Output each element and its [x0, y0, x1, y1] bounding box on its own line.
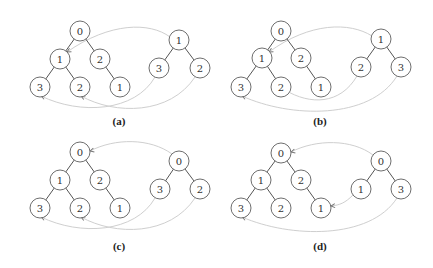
tree-node: 3: [30, 77, 50, 97]
panel-caption: (c): [113, 240, 126, 253]
tree-node: 1: [351, 179, 371, 199]
node-label: 2: [77, 82, 83, 93]
tree-node: 2: [271, 198, 291, 218]
node-label: 3: [238, 203, 244, 214]
mapping-arc: [290, 143, 373, 155]
node-label: 0: [278, 148, 284, 159]
node-label: 2: [358, 62, 364, 73]
tree-node: 3: [391, 179, 411, 199]
left-tree: 012321: [30, 142, 130, 218]
tree-node: 3: [231, 77, 251, 97]
left-tree: 012321: [231, 21, 331, 97]
node-label: 1: [259, 53, 265, 64]
mapping-arc: [89, 142, 172, 154]
tree-node: 2: [291, 170, 311, 190]
node-label: 1: [117, 82, 123, 93]
tree-node: 1: [169, 30, 189, 50]
tree-node: 2: [70, 198, 90, 218]
tree-node: 3: [150, 179, 170, 199]
tree-node: 2: [70, 77, 90, 97]
node-label: 3: [398, 62, 404, 73]
node-label: 0: [378, 156, 384, 167]
tree-node: 0: [371, 151, 391, 171]
tree-node: 0: [271, 21, 291, 41]
tree-node: 1: [311, 77, 331, 97]
tree-node: 1: [252, 48, 272, 68]
node-label: 3: [37, 203, 43, 214]
right-tree: 132: [149, 30, 210, 78]
tree-node: 2: [190, 179, 210, 199]
left-tree: 012321: [30, 21, 130, 97]
panel-caption: (b): [313, 115, 327, 128]
tree-node: 2: [271, 77, 291, 97]
node-label: 0: [77, 26, 83, 37]
tree-node: 0: [70, 21, 90, 41]
node-label: 1: [378, 34, 384, 45]
panel-b: 012321123(b): [231, 21, 411, 128]
node-label: 1: [318, 82, 324, 93]
node-label: 1: [57, 54, 63, 65]
tree-node: 0: [169, 151, 189, 171]
node-label: 1: [318, 203, 324, 214]
tree-matching-figure: 012321132(a)012321123(b)012321032(c)0123…: [0, 0, 433, 268]
panel-d: 012321013(d): [231, 143, 411, 253]
right-tree: 123: [351, 29, 411, 77]
node-label: 3: [238, 82, 244, 93]
node-label: 0: [77, 147, 83, 158]
left-tree: 012321: [231, 143, 331, 218]
tree-node: 2: [291, 48, 311, 68]
node-label: 3: [37, 82, 43, 93]
diagram-canvas: 012321132(a)012321123(b)012321032(c)0123…: [0, 0, 433, 268]
tree-node: 3: [391, 57, 411, 77]
tree-node: 1: [110, 198, 130, 218]
node-label: 1: [57, 175, 63, 186]
tree-node: 1: [50, 170, 70, 190]
tree-node: 0: [70, 142, 90, 162]
right-tree: 013: [351, 151, 411, 199]
tree-node: 1: [311, 198, 331, 218]
node-label: 1: [358, 184, 364, 195]
tree-node: 1: [251, 170, 271, 190]
node-label: 3: [157, 184, 163, 195]
panel-a: 012321132(a): [30, 21, 210, 128]
node-label: 2: [298, 175, 304, 186]
node-label: 2: [278, 82, 284, 93]
node-label: 2: [197, 63, 203, 74]
node-label: 0: [278, 26, 284, 37]
node-label: 2: [197, 184, 203, 195]
node-label: 2: [77, 203, 83, 214]
right-tree: 032: [150, 151, 210, 199]
tree-node: 2: [190, 58, 210, 78]
node-label: 2: [97, 54, 103, 65]
node-label: 3: [156, 63, 162, 74]
tree-node: 0: [271, 143, 291, 163]
node-label: 1: [176, 35, 182, 46]
panel-caption: (d): [313, 240, 327, 253]
node-label: 3: [398, 184, 404, 195]
tree-node: 3: [149, 58, 169, 78]
mapping-arc: [80, 77, 195, 108]
tree-node: 3: [231, 198, 251, 218]
node-label: 2: [278, 203, 284, 214]
panel-c: 012321032(c): [30, 142, 210, 253]
tree-node: 1: [50, 49, 70, 69]
node-label: 1: [117, 203, 123, 214]
tree-node: 2: [351, 57, 371, 77]
tree-node: 2: [90, 49, 110, 69]
node-label: 0: [176, 156, 182, 167]
tree-node: 1: [371, 29, 391, 49]
mapping-arc: [331, 195, 353, 208]
panel-caption: (a): [113, 115, 126, 128]
node-label: 2: [298, 53, 304, 64]
tree-node: 1: [110, 77, 130, 97]
tree-node: 3: [30, 198, 50, 218]
node-label: 2: [97, 175, 103, 186]
mapping-arc: [80, 198, 195, 229]
tree-node: 2: [90, 170, 110, 190]
node-label: 1: [258, 175, 264, 186]
